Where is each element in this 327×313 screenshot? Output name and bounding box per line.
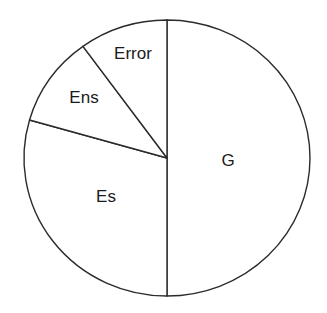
pie-slice-label-error: Error — [114, 44, 152, 63]
pie-slice-label-ens: Ens — [69, 88, 98, 107]
pie-slice-g — [167, 20, 310, 296]
pie-chart-canvas: GEsEnsError — [0, 0, 327, 313]
pie-slices-group — [24, 20, 310, 296]
pie-slice-label-es: Es — [96, 187, 116, 206]
pie-slice-label-g: G — [221, 151, 234, 170]
pie-chart: GEsEnsError — [0, 0, 327, 313]
